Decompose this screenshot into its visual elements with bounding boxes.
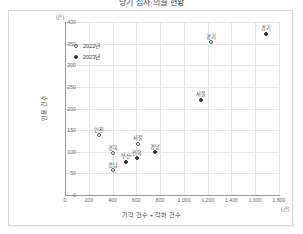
x-axis-line <box>65 195 280 196</box>
data-point-label: 경기 <box>261 24 271 31</box>
y-axis-tick-label: 250 <box>62 84 76 90</box>
x-axis-tick-label: 400 <box>108 197 117 203</box>
y-axis-title: 인용 건수 <box>39 95 48 121</box>
data-point[interactable] <box>264 32 268 36</box>
data-point[interactable] <box>124 160 128 164</box>
x-axis-tick-label: 800 <box>156 197 165 203</box>
x-axis-title: 기각 건수 + 각하 건수 <box>0 210 303 219</box>
chart-title: 당기 심사·의결 현황 <box>0 0 303 7</box>
data-point-label: 경남 <box>108 160 118 167</box>
legend-label-2023: 2023년 <box>83 53 100 61</box>
data-point[interactable] <box>111 168 115 172</box>
data-point-label: 경기 <box>206 32 216 39</box>
data-point[interactable] <box>136 142 140 146</box>
gridline-horizontal <box>65 109 279 110</box>
data-point-label: 경북 <box>108 143 118 150</box>
data-point[interactable] <box>199 98 203 102</box>
y-axis-tick-label: 350 <box>62 41 76 47</box>
x-axis-tick-label: 1,800 <box>273 197 286 203</box>
chart-legend: 2022년 2023년 <box>74 40 100 62</box>
legend-label-2022: 2022년 <box>83 42 100 50</box>
gridline-horizontal <box>65 87 279 88</box>
x-axis-tick-label: 1,400 <box>225 197 238 203</box>
data-point-label: 서울 <box>133 134 143 141</box>
data-point-label: 인천 <box>94 125 104 132</box>
data-point[interactable] <box>111 151 115 155</box>
data-point[interactable] <box>153 150 157 154</box>
gridline-horizontal <box>65 65 279 66</box>
gridline-horizontal <box>65 173 279 174</box>
data-point-label: 경남 <box>150 142 160 149</box>
x-axis-tick-label: 1,000 <box>177 197 190 203</box>
x-axis-tick-label: 1,600 <box>249 197 262 203</box>
y-axis-tick-label: 200 <box>62 106 76 112</box>
y-axis-tick-label: 150 <box>62 127 76 133</box>
legend-item-2023[interactable]: 2023년 <box>74 51 100 62</box>
y-axis-tick-label: 100 <box>62 149 76 155</box>
data-point-label: 전북 <box>132 148 142 155</box>
data-point[interactable] <box>209 40 213 44</box>
x-axis-tick-label: 1,200 <box>201 197 214 203</box>
gridline-horizontal <box>65 152 279 153</box>
y-axis-tick-label: 400 <box>62 19 76 25</box>
legend-marker-filled-circle-icon <box>74 55 78 59</box>
data-point-label: 부산 <box>121 152 131 159</box>
data-point[interactable] <box>135 156 139 160</box>
x-axis-tick-label: 200 <box>84 197 93 203</box>
y-axis-tick-label: 0 <box>62 192 76 198</box>
gridline-vertical <box>279 22 280 195</box>
legend-item-2022[interactable]: 2022년 <box>74 40 100 51</box>
data-point[interactable] <box>97 133 101 137</box>
data-point-label: 서울 <box>196 90 206 97</box>
x-axis-tick-label: 600 <box>132 197 141 203</box>
y-axis-tick-label: 50 <box>62 170 76 176</box>
gridline-horizontal <box>65 22 279 23</box>
y-axis-tick-label: 300 <box>62 62 76 68</box>
